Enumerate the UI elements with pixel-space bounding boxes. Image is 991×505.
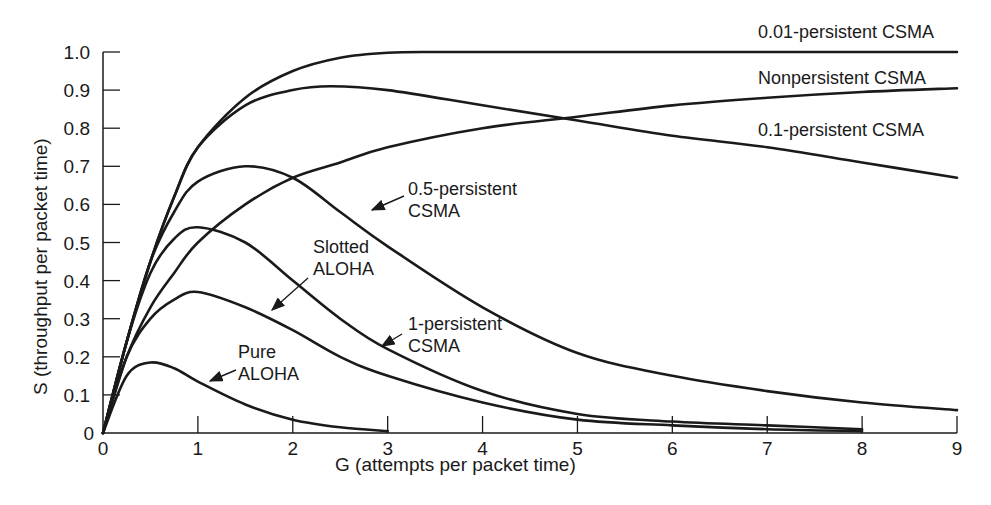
x-tick-label: 6 [667, 438, 678, 459]
annotation-line: ALOHA [313, 259, 374, 279]
annotation-label: 0.5-persistentCSMA [408, 179, 517, 221]
annotation-label: Nonpersistent CSMA [758, 68, 926, 88]
annotation-line: 0.5-persistent [408, 179, 517, 199]
annotation-line: CSMA [408, 336, 460, 356]
annotation-line: 0.1-persistent CSMA [758, 120, 924, 140]
x-axis-label: G (attempts per packet time) [335, 454, 576, 475]
annotations: 0.01-persistent CSMANonpersistent CSMA0.… [210, 22, 934, 384]
annotation-label: 0.01-persistent CSMA [758, 22, 934, 42]
annotation-line: CSMA [408, 201, 460, 221]
x-tick-label: 1 [193, 438, 204, 459]
annotation-label: SlottedALOHA [313, 237, 374, 279]
y-tick-label: 0.6 [64, 194, 90, 215]
y-tick-label: 0 [83, 423, 94, 444]
curves [103, 52, 957, 433]
annotation-label: PureALOHA [238, 342, 299, 384]
x-tick-label: 2 [287, 438, 298, 459]
y-tick-label: 0.9 [64, 80, 90, 101]
y-axis-label: S (throughput per packet time) [30, 138, 51, 395]
y-tick-label: 0.3 [64, 309, 90, 330]
y-tick-label: 0.2 [64, 347, 90, 368]
curve-0-01-persistent-csma [103, 52, 957, 433]
y-tick-label: 0.8 [64, 118, 90, 139]
y-axis: 00.10.20.30.40.50.60.70.80.91.0 [64, 42, 120, 444]
annotation-line: Pure [238, 342, 276, 362]
annotation-label: 0.1-persistent CSMA [758, 120, 924, 140]
curve-slotted-aloha [103, 292, 862, 433]
x-axis: 0123456789 [98, 416, 963, 459]
y-tick-label: 0.5 [64, 233, 90, 254]
annotation-line: 1-persistent [408, 314, 502, 334]
annotation-line: 0.01-persistent CSMA [758, 22, 934, 42]
y-tick-label: 0.1 [64, 385, 90, 406]
annotation-line: ALOHA [238, 364, 299, 384]
annotation-label: 1-persistentCSMA [408, 314, 502, 356]
y-tick-label: 0.4 [64, 271, 91, 292]
throughput-chart: 00.10.20.30.40.50.60.70.80.91.0 01234567… [0, 0, 991, 505]
x-tick-label: 8 [857, 438, 868, 459]
y-tick-label: 1.0 [64, 42, 90, 63]
curve-0-5-persistent-csma [103, 166, 957, 433]
arrow-icon [272, 278, 308, 310]
y-tick-label: 0.7 [64, 156, 90, 177]
annotation-line: Nonpersistent CSMA [758, 68, 926, 88]
arrow-icon [382, 334, 402, 346]
x-tick-label: 0 [98, 438, 109, 459]
annotation-line: Slotted [313, 237, 369, 257]
arrow-icon [210, 370, 236, 381]
x-tick-label: 7 [762, 438, 773, 459]
arrow-icon [372, 196, 404, 210]
x-tick-label: 9 [952, 438, 963, 459]
